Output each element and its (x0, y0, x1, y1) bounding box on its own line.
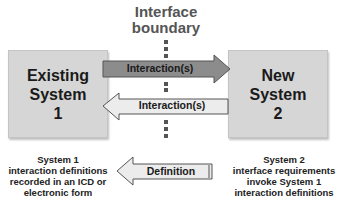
box-label-line: 2 (250, 104, 307, 123)
caption-line: recorded in an ICD or (2, 176, 114, 187)
caption-line: interaction definitions (2, 165, 114, 176)
box-label-line: 1 (27, 104, 89, 123)
title-line-1: Interface (110, 4, 222, 20)
interface-boundary-title: Interface boundary (110, 4, 222, 36)
existing-system-box: Existing System 1 (8, 50, 108, 138)
box-label-line: Existing (27, 66, 89, 85)
new-system-box: New System 2 (228, 50, 328, 138)
box-label-line: System (250, 85, 307, 104)
system-2-caption: System 2 interface requirements invoke S… (228, 154, 340, 198)
system-1-caption: System 1 interaction definitions recorde… (2, 154, 114, 198)
interaction-arrow-right-label: Interaction(s) (104, 62, 216, 74)
box-label-line: New (250, 66, 307, 85)
caption-line: electronic form (2, 187, 114, 198)
box-label-line: System (27, 85, 89, 104)
caption-line: System 2 (228, 154, 340, 165)
caption-line: interface requirements (228, 165, 340, 176)
title-line-2: boundary (110, 20, 222, 36)
definition-arrow-label: Definition (132, 165, 210, 177)
caption-line: invoke System 1 (228, 176, 340, 187)
caption-line: System 1 (2, 154, 114, 165)
interaction-arrow-left-label: Interaction(s) (118, 99, 226, 111)
caption-line: interaction definitions (228, 187, 340, 198)
